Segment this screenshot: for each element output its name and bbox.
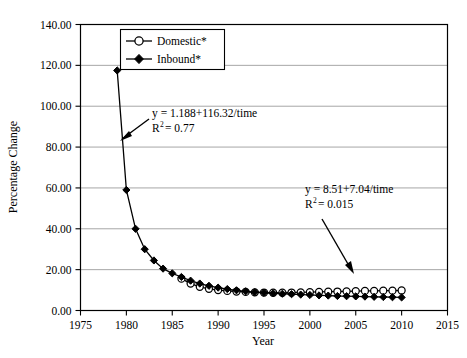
annotation-r-squared-label: R	[305, 198, 313, 210]
x-tick-label: 2010	[390, 319, 413, 331]
y-tick-label: 20.00	[46, 264, 72, 276]
y-tick-label: 100.00	[40, 100, 72, 112]
chart-container: 0.0020.0040.0060.0080.00100.00120.00140.…	[0, 0, 467, 358]
legend-entry-domestic[interactable]: Domestic*	[126, 35, 207, 47]
x-axis-title: Year	[252, 334, 274, 348]
x-axis-tick-labels: 197519801985199019952000200520102015	[69, 319, 459, 331]
annotation-r-squared-value: = 0.77	[165, 122, 195, 134]
annotation-r-squared-exponent: 2	[313, 196, 317, 205]
annotation-r-squared-exponent: 2	[160, 120, 164, 129]
x-tick-label: 2005	[344, 319, 367, 331]
y-tick-label: 40.00	[46, 223, 72, 235]
x-tick-label: 2000	[298, 319, 321, 331]
legend-label-domestic: Domestic*	[157, 35, 207, 47]
y-tick-label: 80.00	[46, 141, 72, 153]
open-circle-marker-icon	[135, 37, 143, 45]
chart-canvas: 0.0020.0040.0060.0080.00100.00120.00140.…	[0, 0, 467, 358]
annotation-r-squared-value: = 0.015	[318, 198, 353, 210]
x-tick-label: 1980	[115, 319, 138, 331]
annotation-equation: y = 1.188+116.32/time	[152, 107, 257, 120]
annotation-r-squared-label: R	[152, 122, 160, 134]
annotation-equation: y = 8.51+7.04/time	[305, 183, 393, 196]
y-tick-label: 140.00	[40, 19, 72, 31]
y-tick-label: 0.00	[51, 305, 71, 317]
chart-legend: Domestic* Inbound*	[121, 30, 225, 70]
x-tick-label: 1995	[253, 319, 276, 331]
x-tick-label: 1990	[207, 319, 230, 331]
y-tick-label: 60.00	[46, 182, 72, 194]
x-tick-label: 1985	[161, 319, 184, 331]
y-tick-label: 120.00	[40, 59, 72, 71]
y-axis-title: Percentage Change	[6, 121, 20, 213]
x-tick-label: 1975	[69, 319, 92, 331]
x-tick-label: 2015	[436, 319, 459, 331]
open-circle-marker-icon	[398, 287, 405, 294]
legend-label-inbound: Inbound*	[157, 53, 201, 65]
